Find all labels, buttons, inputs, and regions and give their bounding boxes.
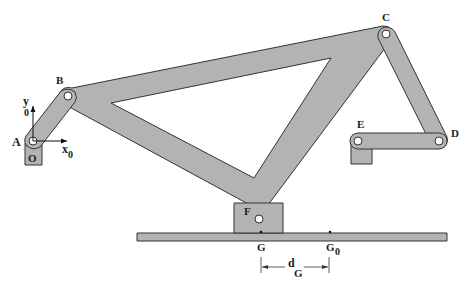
- point-g0-marker: [329, 231, 332, 234]
- ground-rail: [137, 233, 447, 241]
- label-y0-sub: 0: [24, 107, 29, 118]
- label-g: G: [257, 241, 266, 253]
- joint-b-hole: [64, 92, 72, 100]
- label-x0-sub: 0: [68, 149, 73, 160]
- label-f: F: [244, 205, 251, 217]
- dim-arrow-left: [262, 265, 268, 269]
- joint-c-hole: [382, 30, 390, 38]
- dim-arrow-right: [322, 265, 328, 269]
- label-g0-sub: 0: [335, 246, 340, 257]
- label-g0-main: G: [326, 241, 335, 253]
- label-y0-main: y: [23, 94, 29, 108]
- coupler-link-ed: [350, 133, 447, 149]
- label-x0: x 0: [62, 142, 73, 160]
- label-a: A: [12, 135, 21, 149]
- label-b: B: [56, 74, 64, 86]
- label-dg-sub: G: [294, 267, 303, 279]
- label-d: D: [451, 127, 459, 139]
- label-o: O: [28, 152, 37, 164]
- ternary-link-bcf: [59, 26, 394, 205]
- diagram-canvas: A O B C D E F G G 0 x 0 y 0 d G: [0, 0, 467, 292]
- joint-e-hole: [354, 137, 362, 145]
- label-e: E: [357, 118, 364, 130]
- joint-f-hole: [255, 215, 263, 223]
- label-c: C: [382, 11, 390, 23]
- joint-d-hole: [435, 137, 443, 145]
- rocker-link-cd: [378, 27, 448, 148]
- point-g-marker: [260, 231, 263, 234]
- label-g0: G 0: [326, 241, 340, 257]
- label-y0: y 0: [23, 94, 29, 118]
- label-dg: d G: [288, 256, 303, 279]
- y0-axis-arrowhead: [31, 106, 36, 112]
- linkage-diagram: A O B C D E F G G 0 x 0 y 0 d G: [0, 0, 467, 292]
